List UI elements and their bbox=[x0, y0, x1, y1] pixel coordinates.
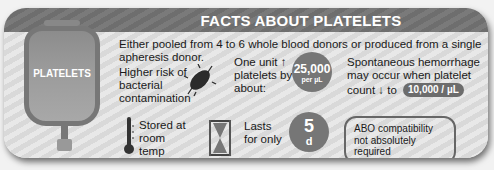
hemorrhage-threshold: 10,000 / µL bbox=[403, 83, 464, 97]
increase-line1: One unit ↑ bbox=[234, 56, 292, 69]
bag-label: PLATELETS bbox=[29, 68, 95, 79]
increase-text: One unit ↑ platelets by about: bbox=[234, 56, 292, 95]
abo-box: ABO compatibility not absolutely require… bbox=[344, 116, 456, 158]
contamination-text: Higher risk of bacterial contamination bbox=[119, 66, 191, 105]
hemorrhage-line1: Spontaneous hemorrhage bbox=[347, 56, 480, 69]
source-line1: Either pooled from 4 to 6 whole blood do… bbox=[119, 38, 481, 51]
blood-bag-icon: PLATELETS bbox=[24, 26, 100, 126]
abo-line2: not absolutely bbox=[354, 135, 446, 147]
shelf-life-line1: Lasts bbox=[244, 120, 282, 133]
shelf-life-badge: 5 d bbox=[289, 112, 329, 152]
contamination-line3: contamination bbox=[119, 92, 191, 105]
thermometer-icon bbox=[122, 116, 136, 156]
increase-unit: per µL bbox=[292, 76, 332, 83]
title: FACTS ABOUT PLATELETS bbox=[114, 12, 488, 29]
bacterium-icon bbox=[182, 64, 218, 96]
hourglass-icon bbox=[208, 120, 232, 156]
hemorrhage-line2: may occur when platelet bbox=[347, 69, 480, 82]
contamination-line1: Higher risk of bbox=[119, 66, 191, 79]
storage-line2: room bbox=[139, 132, 186, 145]
contamination-line2: bacterial bbox=[119, 79, 191, 92]
increase-line2: platelets by bbox=[234, 69, 292, 82]
abo-line3: required bbox=[354, 146, 446, 158]
shelf-life-unit: d bbox=[289, 135, 329, 147]
bag-port bbox=[57, 139, 72, 151]
increase-badge: 25,000 per µL bbox=[292, 52, 332, 92]
storage-line1: Stored at bbox=[139, 119, 186, 132]
source-line2: apheresis donor. bbox=[119, 51, 204, 64]
abo-line1: ABO compatibility bbox=[354, 123, 446, 135]
shelf-life-line2: for only bbox=[244, 133, 282, 146]
shelf-life-value: 5 bbox=[289, 117, 329, 135]
storage-text: Stored at room temp bbox=[139, 119, 186, 158]
platelet-facts-card: FACTS ABOUT PLATELETS PLATELETS Either p… bbox=[4, 8, 488, 158]
storage-line3: temp bbox=[139, 145, 186, 158]
increase-value: 25,000 bbox=[292, 62, 332, 76]
hemorrhage-line3: count ↓ to bbox=[347, 84, 397, 97]
shelf-life-text: Lasts for only bbox=[244, 120, 282, 146]
increase-line3: about: bbox=[234, 82, 292, 95]
hemorrhage-text: Spontaneous hemorrhage may occur when pl… bbox=[347, 56, 480, 82]
